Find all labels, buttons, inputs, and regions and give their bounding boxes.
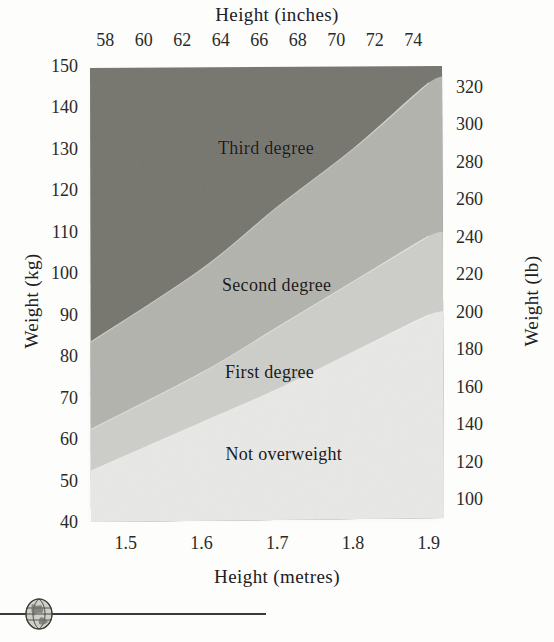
left-tick-70: 70 [34, 387, 78, 408]
globe-icon [19, 593, 59, 635]
bottom-axis-title: Height (metres) [0, 566, 554, 588]
right-tick-100: 100 [456, 489, 502, 510]
left-tick-50: 50 [34, 470, 78, 491]
band-label-second-degree: Second degree [222, 274, 331, 295]
top-tick-72: 72 [366, 30, 384, 51]
footer-ornament [0, 586, 554, 642]
left-tick-90: 90 [34, 304, 78, 325]
bottom-tick-1-9: 1.9 [418, 533, 441, 554]
right-tick-240: 240 [456, 226, 502, 247]
top-tick-58: 58 [96, 30, 114, 51]
right-tick-140: 140 [456, 414, 502, 435]
right-tick-320: 320 [456, 76, 502, 97]
top-tick-60: 60 [135, 30, 153, 51]
right-tick-220: 220 [456, 264, 502, 285]
bottom-tick-1-5: 1.5 [115, 533, 138, 554]
right-tick-120: 120 [456, 451, 502, 472]
right-axis-title: Weight (lb) [521, 221, 543, 381]
left-tick-80: 80 [34, 346, 78, 367]
top-tick-68: 68 [289, 30, 307, 51]
top-tick-70: 70 [327, 30, 345, 51]
top-tick-74: 74 [404, 30, 422, 51]
top-tick-64: 64 [212, 30, 230, 51]
bmi-degree-of-obesity-chart: Height (inches) 586062646668707274 Heigh… [0, 0, 554, 642]
left-tick-150: 150 [34, 56, 78, 77]
left-tick-110: 110 [34, 221, 78, 242]
bottom-tick-1-6: 1.6 [190, 533, 213, 554]
bottom-tick-1-7: 1.7 [266, 533, 289, 554]
left-tick-140: 140 [34, 97, 78, 118]
left-tick-100: 100 [34, 263, 78, 284]
band-label-not-overweight: Not overweight [225, 443, 342, 464]
left-tick-60: 60 [34, 429, 78, 450]
right-tick-300: 300 [456, 114, 502, 135]
plot-area: Third degreeSecond degreeFirst degreeNot… [88, 66, 444, 522]
right-tick-200: 200 [456, 301, 502, 322]
right-tick-280: 280 [456, 151, 502, 172]
left-tick-130: 130 [34, 138, 78, 159]
left-tick-40: 40 [34, 512, 78, 533]
band-label-third-degree: Third degree [218, 138, 314, 159]
right-tick-260: 260 [456, 189, 502, 210]
top-tick-66: 66 [250, 30, 268, 51]
left-tick-120: 120 [34, 180, 78, 201]
bottom-tick-1-8: 1.8 [342, 533, 365, 554]
right-tick-160: 160 [456, 376, 502, 397]
right-tick-180: 180 [456, 339, 502, 360]
band-label-first-degree: First degree [225, 361, 314, 382]
top-tick-62: 62 [173, 30, 191, 51]
top-axis-title: Height (inches) [0, 4, 554, 26]
